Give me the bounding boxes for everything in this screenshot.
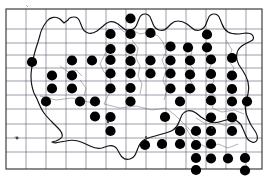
record-dot: [90, 96, 100, 106]
record-dot: [87, 55, 97, 65]
record-dots: [27, 13, 252, 175]
record-dot: [165, 68, 175, 78]
record-dot: [227, 53, 237, 63]
record-dot: [160, 112, 170, 122]
record-dot: [185, 55, 195, 65]
record-dot: [175, 139, 185, 149]
record-dot: [125, 68, 135, 78]
record-dot: [227, 112, 237, 122]
record-dot: [202, 42, 212, 52]
record-dot: [202, 29, 212, 39]
record-dot: [145, 28, 155, 38]
record-dot: [157, 139, 167, 149]
record-dot: [191, 126, 201, 136]
record-dot: [165, 83, 175, 93]
record-dot: [47, 70, 57, 80]
record-dot: [240, 153, 250, 163]
record-dot: [165, 41, 175, 51]
record-dot: [191, 140, 201, 150]
record-dot: [206, 95, 216, 105]
record-dot: [206, 83, 216, 93]
record-dot: [67, 83, 77, 93]
record-dot: [105, 29, 115, 39]
record-dot: [41, 96, 51, 106]
record-dot: [191, 153, 201, 163]
record-dot: [240, 165, 250, 175]
record-dot: [191, 165, 201, 175]
record-dot: [185, 83, 195, 93]
record-dot: [206, 153, 216, 163]
record-dot: [227, 70, 237, 80]
record-dot: [125, 44, 135, 54]
map-canvas: [0, 0, 268, 180]
record-dot: [27, 57, 37, 67]
record-dot: [125, 13, 135, 23]
record-dot: [47, 83, 57, 93]
record-dot: [227, 126, 237, 136]
record-dot: [206, 112, 216, 122]
record-dot: [125, 29, 135, 39]
record-dot: [105, 55, 115, 65]
france-coastline: [31, 14, 257, 159]
record-dot: [105, 83, 115, 93]
record-dot: [183, 42, 193, 52]
record-dot: [165, 55, 175, 65]
record-dot: [206, 126, 216, 136]
record-dot: [175, 96, 185, 106]
record-dot: [242, 96, 252, 106]
record-dot: [227, 84, 237, 94]
record-dot: [125, 56, 135, 66]
record-dot: [206, 69, 216, 79]
record-dot: [67, 70, 77, 80]
record-dot: [145, 68, 155, 78]
record-dot: [105, 126, 115, 136]
record-dot: [145, 55, 155, 65]
record-dot: [223, 153, 233, 163]
record-dot: [67, 55, 77, 65]
record-dot: [125, 83, 135, 93]
distribution-map-figure: Grid-based species distribution map of F…: [0, 0, 268, 180]
record-dot: [125, 96, 135, 106]
record-dot: [140, 140, 150, 150]
record-dot: [175, 126, 185, 136]
record-dot: [105, 112, 115, 122]
record-dot: [75, 96, 85, 106]
record-dot: [227, 96, 237, 106]
record-dot: [90, 111, 100, 121]
record-dot: [206, 139, 216, 149]
record-dot: [105, 44, 115, 54]
record-dot: [105, 68, 115, 78]
record-dot: [206, 54, 216, 64]
record-dot: [185, 69, 195, 79]
